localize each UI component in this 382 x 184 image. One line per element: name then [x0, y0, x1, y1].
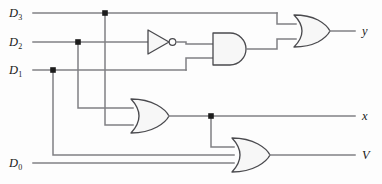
or-bot-gate-body [232, 138, 270, 172]
junction-dot-d2 [75, 39, 81, 45]
and-gate-body [213, 33, 246, 65]
output-label-x: x [362, 110, 368, 123]
or-top-gate-body [294, 15, 330, 47]
input-label-d3: D3 [9, 7, 22, 20]
output-label-y: y [362, 25, 368, 38]
not-gate-bubble [169, 39, 176, 46]
wire-d1-to-and [186, 58, 213, 70]
input-label-d2-sub: 2 [18, 42, 22, 51]
input-label-d0-base: D [9, 156, 18, 170]
junction-dot-d1 [50, 67, 56, 73]
input-label-d3-base: D [9, 6, 18, 20]
input-label-d3-sub: 3 [18, 13, 22, 22]
input-label-d2: D2 [9, 36, 22, 49]
input-label-d0: D0 [9, 157, 22, 170]
junction-dot-d3 [102, 10, 108, 16]
input-label-d1-sub: 1 [18, 70, 22, 79]
input-label-d1-base: D [9, 63, 18, 77]
circuit-canvas [0, 0, 382, 184]
input-label-d2-base: D [9, 35, 18, 49]
input-label-d1: D1 [9, 64, 22, 77]
wire-x-to-or-bot [211, 116, 234, 147]
output-label-v: V [362, 149, 370, 162]
junction-dot-x [208, 113, 214, 119]
wire-and-to-or-top [246, 39, 296, 49]
wire-not-to-and [176, 42, 213, 44]
or-mid-gate-body [131, 99, 169, 133]
input-label-d0-sub: 0 [18, 163, 22, 172]
not-gate-body [148, 30, 169, 54]
logic-circuit-diagram: D3 D2 D1 D0 y x V [0, 0, 382, 184]
wire-d3-to-or-top [277, 13, 296, 24]
